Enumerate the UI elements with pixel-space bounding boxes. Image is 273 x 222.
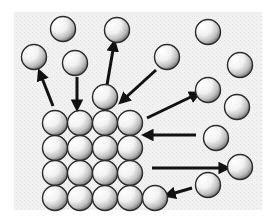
loose-particle <box>143 186 168 211</box>
lattice-particle <box>93 111 118 136</box>
loose-particle <box>105 18 130 43</box>
loose-particle <box>155 45 180 70</box>
lattice-particle <box>68 186 93 211</box>
lattice-particle <box>93 186 118 211</box>
lattice-particle <box>93 136 118 161</box>
lattice-particle <box>118 111 143 136</box>
loose-particle <box>228 155 253 180</box>
loose-particle <box>196 78 221 103</box>
lattice-particle <box>93 161 118 186</box>
lattice-particle <box>43 111 68 136</box>
lattice-particle <box>68 111 93 136</box>
loose-particle <box>196 173 221 198</box>
particle-diagram <box>0 0 273 222</box>
loose-particle <box>225 95 250 120</box>
loose-particle <box>63 51 88 76</box>
loose-particle <box>22 45 47 70</box>
loose-particle <box>228 53 253 78</box>
lattice-particle <box>43 161 68 186</box>
loose-particle <box>196 20 221 45</box>
lattice-particle <box>118 136 143 161</box>
lattice-particle <box>68 161 93 186</box>
lattice-particle <box>118 161 143 186</box>
lattice-particle <box>43 136 68 161</box>
diagram-canvas <box>0 0 273 222</box>
loose-particle <box>204 126 229 151</box>
lattice-particle <box>43 186 68 211</box>
lattice-particle <box>68 136 93 161</box>
loose-particle <box>51 17 76 42</box>
lattice-particle <box>118 186 143 211</box>
loose-particle <box>93 85 118 110</box>
